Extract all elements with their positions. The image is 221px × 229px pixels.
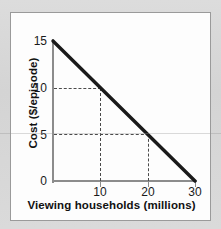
y-axis-title: Cost ($/episode) — [27, 28, 39, 178]
cost-curve-series — [53, 41, 195, 181]
x-tick-label-30: 30 — [183, 185, 207, 199]
plot-area — [53, 41, 195, 181]
chart-figure-panel: 15 10 5 0 10 20 30 Cost ($/episode) View… — [10, 12, 211, 221]
x-tick-label-10: 10 — [88, 185, 112, 199]
x-axis-title: Viewing households (millions) — [11, 199, 212, 211]
x-tick-label-20: 20 — [136, 185, 160, 199]
